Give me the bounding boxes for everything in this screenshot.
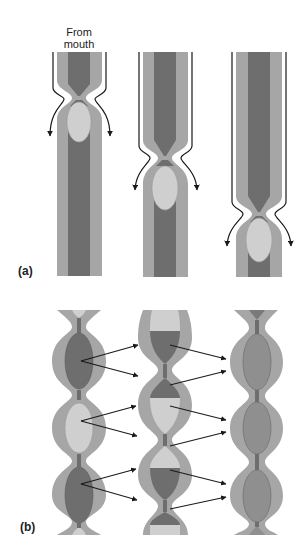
annotation-line-2: mouth [54, 38, 104, 50]
peristalsis-segmentation-diagram [0, 0, 306, 554]
annotation-line-1: From [54, 26, 104, 38]
bolus [246, 218, 272, 262]
segmentation-stage-3 [230, 310, 283, 535]
from-mouth-annotation: From mouth [54, 26, 104, 50]
panel-label-a: (a) [18, 264, 33, 278]
lumen-contents [68, 130, 90, 276]
mixing-arrow [170, 432, 226, 446]
lumen-contents [154, 52, 176, 156]
segment-mixed [243, 334, 271, 390]
peristalsis-stage-3 [227, 52, 291, 277]
segmentation-stage-2 [138, 310, 192, 535]
lumen-contents [248, 52, 270, 212]
bolus [67, 102, 91, 142]
panel-b [52, 310, 283, 535]
panel-a [50, 52, 291, 277]
segment-light [65, 403, 93, 453]
segment-light-half [150, 310, 180, 331]
segment-dark [65, 467, 93, 523]
segment-dark [65, 333, 93, 389]
panel-label-b: (b) [20, 520, 35, 534]
mixing-arrow [170, 371, 226, 385]
peristalsis-stage-1 [50, 52, 110, 276]
peristalsis-stage-2 [135, 52, 197, 277]
bolus [152, 166, 178, 210]
segmentation-stage-1 [52, 310, 106, 535]
segment-mixed [243, 470, 271, 522]
mixing-arrow [170, 497, 226, 509]
segment-light-half [150, 525, 180, 535]
segment-mixed [243, 402, 271, 454]
